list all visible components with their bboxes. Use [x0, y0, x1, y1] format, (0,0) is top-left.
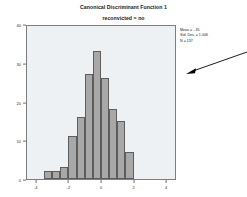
histogram-bar — [85, 74, 93, 179]
histogram-figure: Canonical Discriminant Function 1 reconv… — [0, 0, 247, 197]
x-tick-label: 4 — [165, 185, 167, 190]
callout-arrow-icon — [183, 50, 247, 80]
x-tick-label: -4 — [34, 185, 38, 190]
histogram-bar — [93, 51, 101, 179]
x-tick-mark — [166, 180, 167, 183]
chart-title: Canonical Discriminant Function 1 — [0, 4, 247, 10]
plot-area — [26, 25, 176, 180]
histogram-bar — [60, 167, 68, 179]
histogram-bar — [44, 171, 52, 179]
histogram-bar — [68, 136, 76, 179]
y-tick-label: 40 — [17, 23, 21, 28]
y-tick-label: 30 — [17, 61, 21, 66]
x-tick-label: -2 — [67, 185, 71, 190]
x-tick-mark — [35, 180, 36, 183]
statistics-annotation: Mean = -.35 Std. Dev. = 1.006 N = 137 — [180, 28, 232, 44]
x-axis: -4-2024 — [26, 180, 176, 196]
histogram-bar — [125, 152, 133, 179]
histogram-bar — [101, 78, 109, 179]
sample-size-label: N = 137 — [180, 39, 232, 44]
x-tick-label: 2 — [132, 185, 134, 190]
histogram-bar — [117, 121, 125, 179]
y-tick-label: 20 — [17, 100, 21, 105]
x-tick-mark — [68, 180, 69, 183]
x-tick-mark — [133, 180, 134, 183]
y-axis: 010203040 — [0, 25, 26, 180]
y-tick-label: 0 — [19, 178, 21, 183]
x-tick-label: 0 — [100, 185, 102, 190]
chart-subtitle: reconvicted = no — [0, 15, 247, 21]
x-tick-mark — [101, 180, 102, 183]
histogram-bar — [77, 117, 85, 179]
histogram-bar — [109, 109, 117, 179]
histogram-bar — [52, 171, 60, 179]
y-tick-label: 10 — [17, 139, 21, 144]
